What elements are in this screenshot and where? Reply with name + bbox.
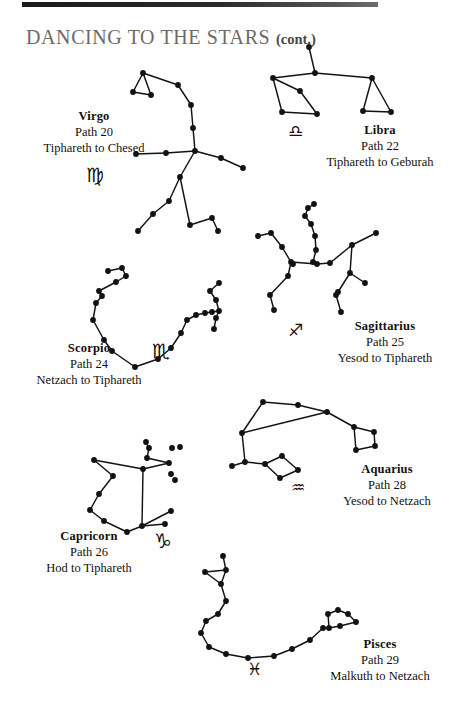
star-point bbox=[313, 247, 319, 253]
star-link bbox=[205, 570, 226, 572]
star-point bbox=[123, 273, 129, 279]
constellation-name-sagittarius: Sagittarius bbox=[310, 318, 460, 334]
star-point bbox=[135, 228, 141, 234]
star-point bbox=[93, 300, 99, 306]
star-point bbox=[279, 244, 285, 250]
star-point bbox=[295, 402, 301, 408]
star-point bbox=[297, 88, 303, 94]
star-point bbox=[113, 279, 119, 285]
star-link bbox=[354, 427, 356, 450]
star-point bbox=[172, 477, 178, 483]
star-point bbox=[184, 317, 190, 323]
star-point bbox=[262, 461, 268, 467]
star-point bbox=[270, 75, 276, 81]
star-link bbox=[178, 85, 191, 105]
star-point bbox=[271, 653, 277, 659]
star-point bbox=[192, 148, 198, 154]
constellation-route-aquarius: Yesod to Netzach bbox=[312, 493, 462, 509]
constellation-name-pisces: Pisces bbox=[300, 636, 460, 652]
star-point bbox=[144, 455, 150, 461]
star-point bbox=[314, 111, 320, 117]
constellation-path-aquarius: Path 28 bbox=[312, 477, 462, 493]
pisces-glyph: ♓ bbox=[247, 661, 262, 678]
star-link bbox=[330, 245, 352, 263]
star-point bbox=[213, 315, 219, 321]
star-link bbox=[133, 73, 143, 92]
star-link bbox=[143, 73, 178, 85]
star-point bbox=[285, 273, 291, 279]
star-point bbox=[290, 261, 296, 267]
constellation-route-virgo: Tiphareth to Chesed bbox=[14, 140, 174, 156]
constellation-path-sagittarius: Path 25 bbox=[310, 334, 460, 350]
star-link bbox=[143, 73, 151, 95]
constellation-name-virgo: Virgo bbox=[14, 108, 174, 124]
star-link bbox=[169, 177, 180, 201]
star-link bbox=[315, 73, 372, 78]
star-point bbox=[146, 445, 152, 451]
star-point bbox=[130, 89, 136, 95]
star-link bbox=[338, 273, 350, 292]
star-point bbox=[177, 444, 183, 450]
star-point bbox=[267, 292, 273, 298]
star-point bbox=[202, 310, 208, 316]
sagittarius-star-map bbox=[258, 200, 408, 325]
libra-star-map bbox=[260, 35, 405, 130]
star-link bbox=[193, 128, 195, 151]
star-point bbox=[338, 309, 344, 315]
star-point bbox=[268, 230, 274, 236]
star-point bbox=[218, 155, 224, 161]
caption-sagittarius: Sagittarius Path 25 Yesod to Tiphareth bbox=[310, 318, 460, 366]
star-point bbox=[202, 569, 208, 575]
star-point bbox=[311, 201, 317, 207]
star-point bbox=[279, 109, 285, 115]
star-point bbox=[373, 230, 379, 236]
star-point bbox=[229, 463, 235, 469]
star-point bbox=[260, 399, 266, 405]
star-point bbox=[289, 646, 295, 652]
constellation-path-scorpio: Path 24 bbox=[4, 356, 174, 372]
star-point bbox=[203, 618, 209, 624]
constellation-path-libra: Path 22 bbox=[300, 138, 460, 154]
star-point bbox=[326, 625, 332, 631]
star-point bbox=[90, 317, 96, 323]
star-point bbox=[166, 198, 172, 204]
page-title-main: DANCING TO THE STARS bbox=[26, 26, 270, 48]
star-link bbox=[273, 78, 300, 91]
star-point bbox=[271, 307, 277, 313]
star-link bbox=[226, 654, 248, 658]
star-point bbox=[325, 611, 331, 617]
star-point bbox=[314, 261, 320, 267]
star-point bbox=[345, 611, 351, 617]
star-link bbox=[363, 111, 391, 112]
star-link bbox=[273, 78, 282, 112]
star-point bbox=[349, 242, 355, 248]
star-point bbox=[166, 460, 172, 466]
star-point bbox=[175, 82, 181, 88]
star-point bbox=[223, 598, 229, 604]
star-link bbox=[363, 78, 372, 111]
star-point bbox=[353, 447, 359, 453]
star-link bbox=[180, 177, 190, 225]
star-point bbox=[168, 508, 174, 514]
caption-aquarius: Aquarius Path 28 Yesod to Netzach bbox=[312, 461, 462, 509]
star-link bbox=[147, 458, 169, 463]
star-point bbox=[188, 102, 194, 108]
star-point bbox=[223, 651, 229, 657]
star-point bbox=[223, 567, 229, 573]
star-point bbox=[209, 215, 215, 221]
star-point bbox=[255, 233, 261, 239]
star-point bbox=[150, 211, 156, 217]
caption-libra: Libra Path 22 Tiphareth to Geburah bbox=[300, 122, 460, 170]
constellation-route-capricorn: Hod to Tiphareth bbox=[4, 560, 174, 576]
star-link bbox=[221, 158, 243, 168]
scorpio-glyph: ♏ bbox=[152, 341, 170, 361]
star-point bbox=[215, 228, 221, 234]
star-link bbox=[195, 151, 221, 158]
star-point bbox=[312, 233, 318, 239]
star-point bbox=[193, 312, 199, 318]
star-point bbox=[337, 623, 343, 629]
star-point bbox=[277, 475, 283, 481]
star-link bbox=[352, 233, 376, 245]
star-link bbox=[191, 105, 193, 128]
star-link bbox=[354, 427, 374, 432]
